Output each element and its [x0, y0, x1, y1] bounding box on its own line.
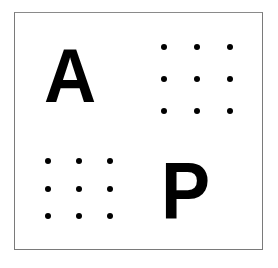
dot-bottom-left [107, 213, 113, 219]
dot-top-right [227, 44, 233, 50]
dot-top-right [227, 108, 233, 114]
dot-bottom-left [107, 186, 113, 192]
letter-p: P [161, 151, 210, 231]
dot-bottom-left [76, 186, 82, 192]
dot-bottom-left [76, 213, 82, 219]
dot-top-right [194, 76, 200, 82]
dot-top-right [194, 108, 200, 114]
dot-bottom-left [76, 158, 82, 164]
dot-bottom-left [45, 213, 51, 219]
dot-top-right [227, 76, 233, 82]
dot-top-right [194, 44, 200, 50]
dot-top-right [161, 108, 167, 114]
dot-bottom-left [107, 158, 113, 164]
dot-top-right [161, 44, 167, 50]
dot-bottom-left [45, 158, 51, 164]
letter-a: A [44, 38, 96, 114]
dot-bottom-left [45, 186, 51, 192]
dot-top-right [161, 76, 167, 82]
